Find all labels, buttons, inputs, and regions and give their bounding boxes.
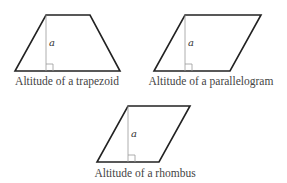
trapezoid-figure: a Altitude of a trapezoid [15,15,120,88]
parallelogram-outline [154,15,261,71]
parallelogram-altitude-label: a [188,37,194,48]
rhombus-caption: Altitude of a rhombus [94,167,196,179]
parallelogram-right-angle-marker [185,64,192,71]
parallelogram-caption: Altitude of a parallelogram [149,75,274,88]
trapezoid-altitude-label: a [49,37,55,48]
rhombus-altitude-label: a [131,128,137,139]
trapezoid-right-angle-marker [46,64,53,71]
parallelogram-figure: a Altitude of a parallelogram [149,15,274,88]
trapezoid-outline [15,15,120,71]
rhombus-right-angle-marker [128,155,135,162]
altitude-diagram: a Altitude of a trapezoid a Altitude of … [0,0,287,183]
rhombus-figure: a Altitude of a rhombus [94,106,196,179]
trapezoid-caption: Altitude of a trapezoid [15,75,119,88]
rhombus-outline [97,106,190,162]
